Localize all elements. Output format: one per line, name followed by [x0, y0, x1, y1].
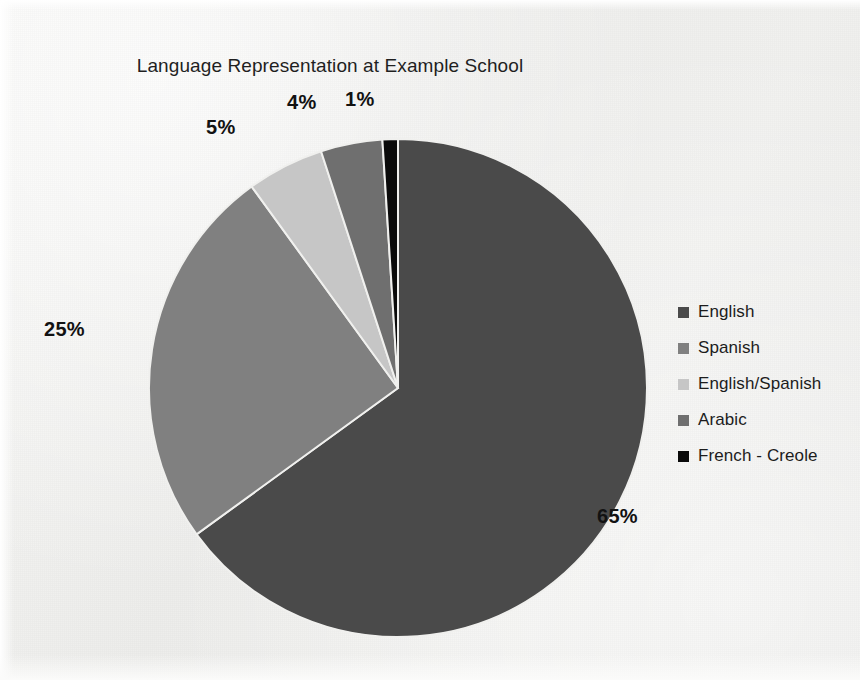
legend-swatch-icon	[678, 307, 689, 318]
legend-item-label: English	[698, 302, 754, 322]
legend-swatch-icon	[678, 451, 689, 462]
pie-slices	[149, 139, 647, 637]
legend-swatch-icon	[678, 379, 689, 390]
legend-item-label: English/Spanish	[698, 374, 821, 394]
legend-item-label: Arabic	[698, 410, 747, 430]
chart-title: Language Representation at Example Schoo…	[0, 55, 660, 77]
legend-item[interactable]: Arabic	[678, 402, 856, 438]
legend-item[interactable]: Spanish	[678, 330, 856, 366]
slice-label-spanish: 25%	[44, 318, 85, 341]
pie-chart-page: Language Representation at Example Schoo…	[0, 0, 860, 680]
legend-item[interactable]: French - Creole	[678, 438, 856, 474]
legend-swatch-icon	[678, 343, 689, 354]
legend-swatch-icon	[678, 415, 689, 426]
slice-label-english: 65%	[597, 505, 638, 528]
chart-legend: EnglishSpanishEnglish/SpanishArabicFrenc…	[678, 294, 856, 474]
slice-label-english-spanish: 5%	[206, 116, 236, 139]
slice-label-french-creole: 1%	[345, 88, 375, 111]
legend-item[interactable]: English/Spanish	[678, 366, 856, 402]
legend-item-label: Spanish	[698, 338, 760, 358]
legend-item-label: French - Creole	[698, 446, 818, 466]
slice-label-arabic: 4%	[287, 91, 317, 114]
legend-item[interactable]: English	[678, 294, 856, 330]
